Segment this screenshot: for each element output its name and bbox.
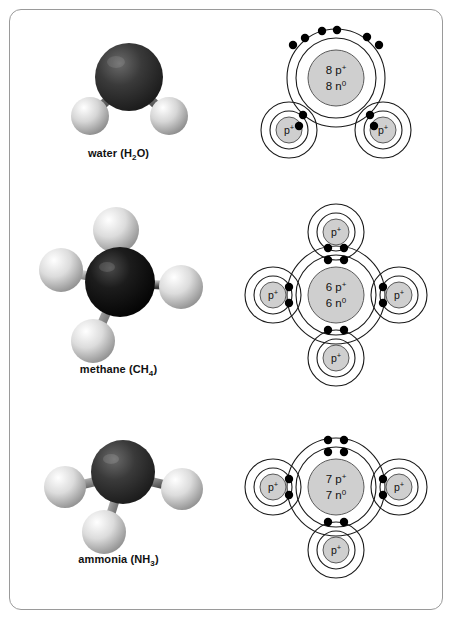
figure-frame: water (H2O) 8 p+ 8 n0 p+	[9, 9, 443, 610]
hydrogen-sphere	[150, 97, 188, 135]
oxygen-nucleus	[308, 50, 364, 106]
carbon-sphere	[85, 247, 155, 317]
electron-dot-bonding	[324, 244, 332, 252]
specular-highlight	[99, 262, 115, 272]
nitrogen-nucleus	[308, 459, 364, 515]
caption-water-formula-tail: O	[137, 147, 146, 159]
electron-dot-lone-pair	[340, 448, 348, 456]
electron-dot-bonding	[324, 326, 332, 334]
electron-dot	[289, 41, 297, 49]
electron-dot-lone-pair	[340, 436, 348, 444]
caption-water: water (H2O)	[10, 147, 227, 162]
electron-dot-bonding	[295, 122, 303, 130]
bohr-diagram-ammonia: 7 p+ 7 n0 p+ p+ p+	[227, 425, 444, 600]
bohr-diagram-water: 8 p+ 8 n0 p+ p+	[227, 20, 444, 200]
hydrogen-sphere	[39, 248, 83, 292]
electron-dot	[333, 26, 341, 34]
molecule-row-ammonia: ammonia (NH3) 7	[10, 425, 444, 600]
caption-methane-formula-sub: 4	[149, 369, 154, 378]
caption-methane-formula-main: CH	[133, 363, 149, 375]
molecule-row-methane: methane (CH4)	[10, 200, 444, 415]
electron-dot-bonding	[285, 299, 293, 307]
hydrogen-sphere	[93, 207, 139, 253]
electron-dot-bonding	[379, 283, 387, 291]
electron-dot-bonding	[340, 326, 348, 334]
caption-methane-name: methane	[80, 363, 126, 375]
hydrogen-sphere	[159, 265, 203, 309]
caption-methane: methane (CH4)	[10, 363, 227, 378]
electron-dot-bonding	[340, 256, 348, 264]
electron-dot-bonding	[324, 518, 332, 526]
ball-stick-model-methane: methane (CH4)	[10, 200, 227, 415]
hydrogen-sphere	[71, 97, 109, 135]
hydrogen-sphere	[44, 466, 86, 508]
caption-ammonia-formula-main: NH	[134, 553, 150, 565]
specular-highlight	[107, 56, 125, 68]
carbon-nucleus	[308, 267, 364, 323]
electron-dot	[363, 33, 371, 41]
electron-dot	[375, 41, 383, 49]
electron-dot-bonding	[366, 111, 374, 119]
electron-dot-bonding	[379, 475, 387, 483]
ball-stick-model-ammonia: ammonia (NH3)	[10, 425, 227, 600]
electron-dot-bonding	[379, 491, 387, 499]
electron-dot-lone-pair	[324, 436, 332, 444]
caption-water-formula-main: H	[124, 147, 132, 159]
hydrogen-sphere	[161, 468, 203, 510]
oxygen-sphere	[95, 43, 163, 111]
electron-dot-bonding	[285, 475, 293, 483]
electron-dot-bonding	[285, 283, 293, 291]
hydrogen-sphere	[82, 510, 126, 554]
electron-dot-bonding	[340, 518, 348, 526]
electron-dot-bonding	[340, 244, 348, 252]
molecule-row-water: water (H2O) 8 p+ 8 n0 p+	[10, 20, 444, 200]
bohr-diagram-methane: 6 p+ 6 n0 p+ p+ p+ p+	[227, 200, 444, 415]
caption-water-name: water	[88, 147, 117, 159]
electron-dot-bonding	[379, 299, 387, 307]
electron-dot-lone-pair	[324, 448, 332, 456]
caption-ammonia-formula-sub: 3	[150, 559, 155, 568]
ball-stick-model-water: water (H2O)	[10, 20, 227, 200]
electron-dot-bonding	[370, 122, 378, 130]
electron-dot-bonding	[299, 111, 307, 119]
caption-ammonia: ammonia (NH3)	[10, 553, 227, 568]
nitrogen-sphere	[91, 440, 155, 504]
electron-dot	[301, 34, 309, 42]
electron-dot	[318, 27, 326, 35]
hydrogen-sphere	[71, 319, 115, 363]
electron-dot-bonding	[324, 256, 332, 264]
specular-highlight	[103, 454, 119, 464]
electron-dot-bonding	[285, 491, 293, 499]
caption-ammonia-name: ammonia	[78, 553, 127, 565]
